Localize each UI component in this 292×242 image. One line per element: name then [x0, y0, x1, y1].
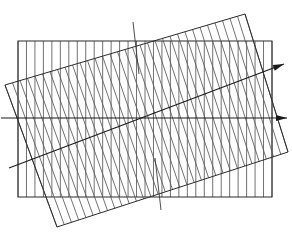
moire-figure-root	[0, 0, 292, 242]
moire-diagram	[0, 0, 292, 242]
